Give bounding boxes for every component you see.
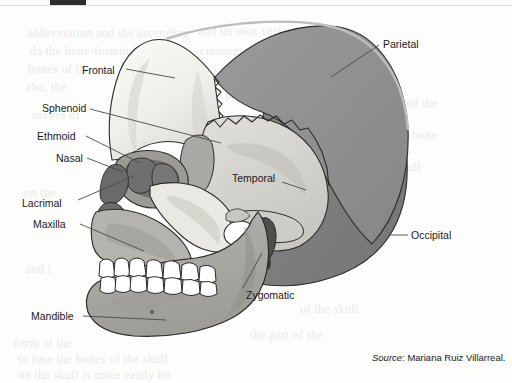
- label-nasal: Nasal: [56, 152, 83, 164]
- label-occipital: Occipital: [411, 229, 451, 241]
- source-prefix: Source: [372, 352, 402, 363]
- label-temporal: Temporal: [232, 172, 275, 184]
- label-mandible: Mandible: [31, 310, 74, 322]
- label-frontal: Frontal: [82, 64, 115, 76]
- label-maxilla: Maxilla: [33, 218, 66, 230]
- label-parietal: Parietal: [383, 38, 419, 50]
- source-text: Mariana Ruiz Villarreal.: [407, 352, 505, 363]
- source-attribution: Source: Mariana Ruiz Villarreal.: [372, 352, 505, 363]
- label-ethmoid: Ethmoid: [37, 130, 76, 142]
- mental-foramen: [150, 310, 154, 314]
- label-lacrimal: Lacrimal: [22, 197, 62, 209]
- label-sphenoid: Sphenoid: [42, 102, 86, 114]
- label-zygomatic: Zygomatic: [246, 289, 294, 301]
